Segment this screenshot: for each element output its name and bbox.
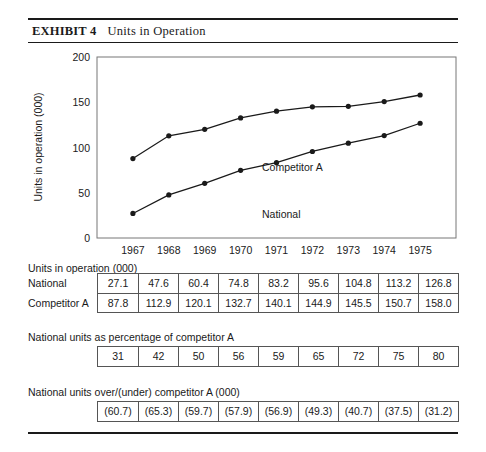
table2-cell: 59 [258,347,298,366]
y-axis-title: Units in operation (000) [32,92,44,201]
table1-cell: 27.1 [98,274,138,293]
table1-cell: 140.1 [258,293,298,312]
chart-canvas: 050100150200 196719681969197019711972197… [0,48,486,263]
y-tick-0: 0 [84,232,90,244]
x-tick-1967: 1967 [121,244,145,256]
data-point [238,115,243,120]
header-title-row: EXHIBIT 4 Units in Operation [28,20,458,42]
x-tick-1973: 1973 [337,244,361,256]
data-point [418,121,423,126]
series-layer [130,92,422,216]
table1-cell: 95.6 [298,274,338,293]
table2-cell: 65 [298,347,338,366]
table2-grid: 314250565965727580 [97,346,459,367]
table1-cell: 126.8 [418,274,458,293]
y-tick-150: 150 [72,96,90,108]
x-tick-1974: 1974 [373,244,397,256]
x-axis-tick-labels: 196719681969197019711972197319741975 [121,244,432,256]
data-point [238,168,243,173]
table3-cell: (49.3) [298,402,338,421]
table3-cell: (65.3) [138,402,178,421]
table3-cell: (56.9) [258,402,298,421]
table2-cell: 72 [338,347,378,366]
header-rule-bottom [28,42,458,43]
table2-cell: 56 [218,347,258,366]
table3-grid: (60.7)(65.3)(59.7)(57.9)(56.9)(49.3)(40.… [97,401,459,422]
table1-cell: 47.6 [138,274,178,293]
data-point [418,92,423,97]
y-tick-50: 50 [78,187,90,199]
data-point [346,141,351,146]
series-label-competitor-a: Competitor A [262,161,323,173]
footer-rule [28,432,458,434]
table1-row-label-national: National [28,277,67,289]
data-point [310,104,315,109]
table1-cell: 60.4 [178,274,218,293]
table1-cell: 145.5 [338,293,378,312]
data-point [382,99,387,104]
table2-cell: 75 [378,347,418,366]
y-axis-tick-labels: 050100150200 [72,51,90,244]
table1-cell: 120.1 [178,293,218,312]
footer-rule-line [28,432,458,434]
table2-cell: 31 [98,347,138,366]
table3-cell: (59.7) [178,402,218,421]
table1-grid: 27.147.660.474.883.295.6104.8113.2126.88… [97,273,459,313]
data-point [274,109,279,114]
table1-cell: 104.8 [338,274,378,293]
exhibit-header: EXHIBIT 4 Units in Operation [28,18,458,43]
table3-cell: (57.9) [218,402,258,421]
data-point [382,133,387,138]
table1-cell: 87.8 [98,293,138,312]
table1-cell: 150.7 [378,293,418,312]
data-point [166,192,171,197]
table2-cell: 50 [178,347,218,366]
table1-cell: 132.7 [218,293,258,312]
table1-cell: 112.9 [138,293,178,312]
exhibit-number-label: EXHIBIT 4 [32,24,96,39]
x-tick-1972: 1972 [301,244,325,256]
table1-cell: 144.9 [298,293,338,312]
data-point [346,104,351,109]
data-point [130,156,135,161]
table1-cell: 74.8 [218,274,258,293]
y-tick-200: 200 [72,51,90,63]
table3-cell: (31.2) [418,402,458,421]
data-point [310,149,315,154]
table1-cell: 113.2 [378,274,418,293]
y-tick-100: 100 [72,142,90,154]
table2-cell: 42 [138,347,178,366]
x-tick-1969: 1969 [193,244,217,256]
x-tick-1968: 1968 [157,244,181,256]
table1-cell: 83.2 [258,274,298,293]
data-point [202,127,207,132]
data-point [166,133,171,138]
table3-cell: (40.7) [338,402,378,421]
exhibit-title: Units in Operation [107,24,205,39]
series-line-competitor-a [133,95,420,159]
data-point [202,181,207,186]
table3-cell: (60.7) [98,402,138,421]
table3-caption: National units over/(under) competitor A… [28,386,240,398]
table1-cell: 158.0 [418,293,458,312]
x-tick-1970: 1970 [229,244,253,256]
units-in-operation-chart: 050100150200 196719681969197019711972197… [0,48,486,263]
x-tick-1971: 1971 [265,244,289,256]
table2-cell: 80 [418,347,458,366]
table1-row-label-competitor-a: Competitor A [28,297,89,309]
data-point [130,211,135,216]
x-tick-1975: 1975 [408,244,432,256]
table3-cell: (37.5) [378,402,418,421]
table2-caption: National units as percentage of competit… [28,331,234,343]
series-label-national: National [262,208,301,220]
